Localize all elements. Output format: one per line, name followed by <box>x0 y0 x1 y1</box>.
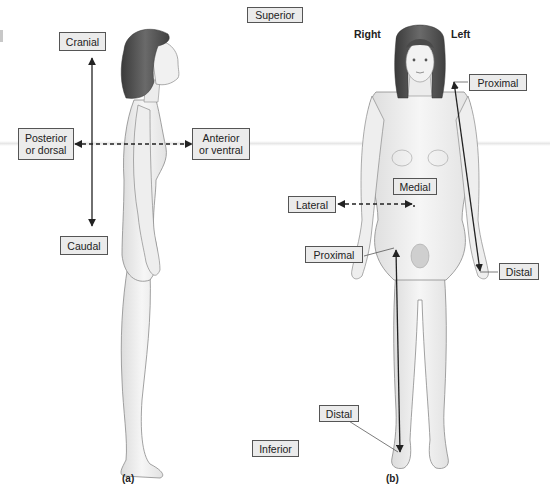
leader-line <box>344 418 398 452</box>
inferior-label: Inferior <box>252 440 299 457</box>
cranial-label: Cranial <box>59 32 106 51</box>
anterior-label: Anterior or ventral <box>192 128 250 160</box>
arm-proximal-label: Proximal <box>469 74 527 91</box>
anatomical-directional-terms-diagram: Cranial Posterior or dorsal Anterior or … <box>0 0 550 489</box>
lateral-body-figure <box>121 29 179 478</box>
medial-label: Medial <box>393 178 437 195</box>
arm-distal-label: Distal <box>499 263 539 280</box>
right-side-label: Right <box>354 28 381 40</box>
caption-b: (b) <box>386 473 399 484</box>
anterior-body-figure <box>352 25 489 469</box>
caudal-label: Caudal <box>60 236 108 255</box>
leg-distal-label: Distal <box>319 405 359 422</box>
lateral-label: Lateral <box>288 196 336 213</box>
leg-proximal-label: Proximal <box>305 246 363 263</box>
superior-label: Superior <box>247 7 303 23</box>
left-side-label: Left <box>451 28 470 40</box>
caption-a: (a) <box>122 473 134 484</box>
posterior-label: Posterior or dorsal <box>18 128 74 160</box>
